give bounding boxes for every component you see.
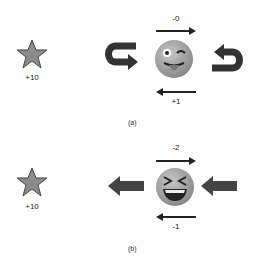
star-icon — [16, 166, 48, 198]
star-icon — [16, 38, 48, 70]
rotate-arrow-icon — [210, 40, 246, 74]
panel-caption: (b) — [128, 245, 137, 252]
laughing-emoji-icon — [154, 166, 196, 208]
star-reward-label: +10 — [14, 202, 50, 211]
winking-tongue-emoji-icon — [153, 38, 195, 80]
star-reward-label: +10 — [14, 73, 50, 82]
right-arrow-icon — [156, 157, 196, 165]
left-arrow-icon — [156, 88, 196, 96]
top-arrow-label: -2 — [164, 143, 188, 152]
panel-caption: (a) — [128, 119, 137, 126]
left-arrow-icon — [156, 213, 196, 221]
top-arrow-label: -0 — [164, 14, 188, 23]
thick-left-arrow-icon — [201, 176, 237, 196]
bottom-arrow-label: +1 — [164, 97, 188, 106]
thick-left-arrow-icon — [108, 176, 144, 196]
right-arrow-icon — [156, 27, 196, 35]
rotate-arrow-icon — [102, 40, 140, 72]
bottom-arrow-label: -1 — [164, 222, 188, 231]
